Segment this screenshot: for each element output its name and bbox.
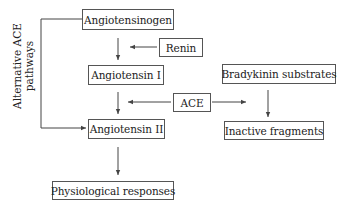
node-angiotensinogen: Angiotensinogen [82, 9, 174, 30]
node-renin: Renin [159, 38, 203, 57]
alternative-pathway-line [41, 19, 86, 128]
node-angiotensin-ii: Angiotensin II [88, 119, 165, 139]
side-label-line2: pathways [23, 23, 35, 109]
node-bradykinin-substrates: Bradykinin substrates [222, 64, 336, 84]
side-label-line1: Alternative ACE [11, 23, 23, 109]
node-physiological-responses: Physiological responses [52, 181, 174, 200]
alternative-ace-pathways-label: Alternative ACE pathways [11, 23, 35, 109]
node-inactive-fragments: Inactive fragments [224, 121, 324, 140]
node-ace: ACE [173, 93, 211, 112]
node-angiotensin-i: Angiotensin I [88, 65, 164, 85]
